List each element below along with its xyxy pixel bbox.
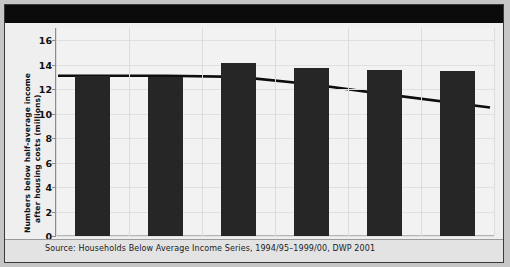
y-tick-mark [52,236,56,237]
y-tick-label: 2 [22,206,52,217]
y-tick-label: 16 [22,35,52,46]
y-tick-label: 14 [22,59,52,70]
top-black-band [5,5,503,23]
source-note: Source: Households Below Average Income … [45,244,375,253]
y-tick-label: 4 [22,182,52,193]
x-gridline [275,28,276,236]
x-gridline [202,28,203,236]
x-gridline [348,28,349,236]
bar [367,70,401,236]
x-gridline [56,28,57,236]
plot-area: Numbers below half-average income after … [5,23,503,240]
bar [148,77,182,236]
figure-container: Numbers below half-average income after … [0,0,510,267]
x-gridline [494,28,495,236]
x-gridline [421,28,422,236]
y-tick-label: 10 [22,108,52,119]
axes: 0246810121416 [55,28,494,236]
y-tick-label: 12 [22,84,52,95]
bar [221,63,255,236]
bar [440,71,474,236]
bar [75,76,109,236]
bar [294,68,328,236]
y-tick-label: 8 [22,133,52,144]
line-series [58,76,490,108]
source-bar: Source: Households Below Average Income … [5,239,503,262]
x-gridline [129,28,130,236]
chart-frame: Numbers below half-average income after … [4,4,504,263]
y-tick-label: 6 [22,157,52,168]
y-gridline [56,236,494,237]
